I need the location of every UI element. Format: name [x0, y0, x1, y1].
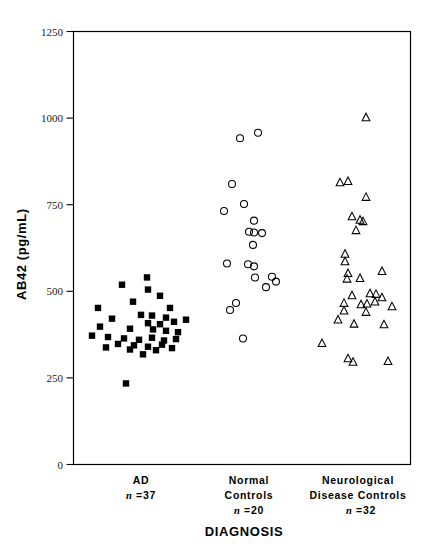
data-point-triangle [372, 290, 380, 297]
data-point-circle [269, 273, 276, 280]
data-point-triangle [384, 357, 392, 364]
x-axis-group-labels: AD n =37 Normal Controls n =20 Neurologi… [126, 474, 407, 516]
y-tick-label-750: 750 [47, 199, 64, 211]
data-point-circle [250, 241, 257, 248]
data-point-triangle [380, 320, 388, 327]
data-point-triangle [336, 178, 344, 185]
group-label-ndc-line1: Neurological [322, 474, 394, 486]
data-point-square [140, 351, 146, 357]
data-point-triangle [348, 212, 356, 219]
data-point-triangle [362, 113, 370, 120]
group-n-ad: n =37 [126, 489, 156, 501]
data-point-triangle [378, 267, 386, 274]
series-neurological-disease-controls [318, 113, 396, 365]
data-point-circle [227, 307, 234, 314]
data-point-square [169, 345, 175, 351]
data-point-triangle [318, 339, 326, 346]
data-point-circle [255, 129, 262, 136]
data-point-circle [233, 300, 240, 307]
data-point-square [95, 305, 101, 311]
scatter-plot-figure: 1250 1000 750 500 250 0 AB42 (pg/mL) AD … [0, 0, 433, 544]
data-point-square [150, 326, 156, 332]
data-point-circle [273, 278, 280, 285]
data-point-triangle [334, 316, 342, 323]
data-point-circle [237, 135, 244, 142]
data-point-square [119, 282, 125, 288]
data-point-triangle [362, 193, 370, 200]
data-point-triangle [356, 274, 364, 281]
data-point-square [163, 328, 169, 334]
data-point-square [123, 380, 129, 386]
plot-frame [74, 32, 411, 465]
data-point-triangle [348, 291, 356, 298]
data-point-square [136, 337, 142, 343]
data-point-triangle [363, 300, 371, 307]
data-point-square [153, 347, 159, 353]
data-point-square [163, 314, 169, 320]
x-axis-title: DIAGNOSIS [205, 524, 283, 539]
data-point-square [183, 317, 189, 323]
data-point-circle [241, 201, 248, 208]
data-point-square [103, 344, 109, 350]
data-point-square [149, 335, 155, 341]
data-point-square [115, 341, 121, 347]
data-point-square [89, 332, 95, 338]
data-point-square [97, 323, 103, 329]
data-point-square [127, 346, 133, 352]
y-tick-label-0: 0 [58, 459, 64, 471]
y-tick-label-500: 500 [47, 285, 64, 297]
series-ad [89, 274, 189, 386]
data-point-triangle [362, 308, 370, 315]
group-label-normal-line1: Normal [229, 474, 269, 486]
data-point-square [145, 320, 151, 326]
data-point-square [167, 305, 173, 311]
y-tick-label-1250: 1250 [41, 26, 64, 38]
data-point-square [145, 286, 151, 292]
data-point-circle [263, 284, 270, 291]
y-tick-label-250: 250 [47, 372, 64, 384]
y-tick-label-1000: 1000 [41, 112, 64, 124]
data-point-square [157, 293, 163, 299]
data-point-triangle [341, 257, 349, 264]
group-n-normal: n =20 [234, 504, 264, 516]
data-point-square [105, 334, 111, 340]
y-axis-tick-labels: 1250 1000 750 500 250 0 [41, 26, 64, 471]
data-point-triangle [341, 250, 349, 257]
data-point-circle [251, 229, 258, 236]
group-label-ad-line1: AD [133, 474, 150, 486]
data-point-circle [221, 207, 228, 214]
plot-canvas: 1250 1000 750 500 250 0 AB42 (pg/mL) AD … [0, 0, 433, 544]
data-point-square [149, 312, 155, 318]
group-n-ndc: n =32 [346, 504, 376, 516]
data-point-square [157, 321, 163, 327]
data-point-circle [224, 260, 231, 267]
data-point-triangle [340, 307, 348, 314]
data-point-square [130, 298, 136, 304]
data-point-circle [229, 180, 236, 187]
data-point-square [175, 329, 181, 335]
data-point-square [144, 274, 150, 280]
data-point-circle [252, 274, 259, 281]
data-point-circle [259, 230, 266, 237]
data-point-circle [251, 263, 258, 270]
data-point-square [145, 344, 151, 350]
data-point-circle [251, 217, 258, 224]
data-markers-layer [89, 113, 396, 386]
group-label-normal-line2: Controls [225, 489, 274, 501]
group-label-ndc-line2: Disease Controls [310, 489, 407, 501]
data-point-square [138, 312, 144, 318]
data-point-circle [240, 335, 247, 342]
data-point-triangle [352, 226, 360, 233]
series-normal-controls [221, 129, 280, 342]
data-point-square [159, 341, 165, 347]
data-point-triangle [344, 354, 352, 361]
data-point-triangle [388, 302, 396, 309]
data-point-square [127, 326, 133, 332]
data-point-square [171, 319, 177, 325]
data-point-square [109, 315, 115, 321]
data-point-square [173, 336, 179, 342]
y-axis-title: AB42 (pg/mL) [14, 208, 29, 300]
data-point-triangle [340, 299, 348, 306]
data-point-triangle [344, 177, 352, 184]
data-point-square [121, 335, 127, 341]
